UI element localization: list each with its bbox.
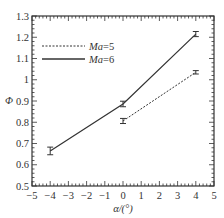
y-tick-label: 1.1 (16, 53, 29, 64)
x-tick-label: −5 (26, 190, 37, 201)
x-tick-labels: −5−4−3−2−1012345 (26, 190, 216, 201)
x-tick-label: −2 (81, 190, 92, 201)
series-ma-6 (47, 32, 199, 155)
series-ma-5 (120, 71, 199, 124)
x-tick-label: 0 (120, 190, 125, 201)
x-tick-label: −3 (63, 190, 74, 201)
x-tick-label: −4 (45, 190, 57, 201)
error-bar (120, 118, 126, 123)
series-line (50, 34, 196, 151)
x-tick-label: −1 (99, 190, 110, 201)
x-tick-label: 1 (139, 190, 144, 201)
series-line (123, 72, 196, 121)
error-bar (47, 147, 53, 155)
x-tick-label: 4 (193, 190, 199, 201)
legend-label-ma6: Ma=6 (88, 54, 114, 65)
legend: Ma=5 Ma=6 (42, 41, 114, 65)
y-tick-label: 1.3 (16, 11, 29, 22)
y-tick-labels: 0.50.60.70.80.911.11.21.3 (16, 11, 29, 192)
y-axis-label: Φ (5, 95, 13, 106)
x-tick-label: 5 (211, 190, 216, 201)
legend-label-ma5: Ma=5 (88, 41, 114, 52)
y-tick-label: 1.2 (16, 32, 29, 43)
x-tick-label: 2 (157, 190, 162, 201)
y-tick-label: 0.8 (16, 117, 29, 128)
data-series (47, 32, 199, 155)
y-tick-label: 0.9 (16, 96, 29, 107)
line-chart: 0.50.60.70.80.911.11.21.3 −5−4−3−2−10123… (0, 0, 224, 218)
y-tick-label: 0.6 (16, 159, 29, 170)
y-tick-label: 1 (24, 74, 29, 85)
x-axis-label: α/(°) (113, 203, 133, 215)
y-tick-label: 0.7 (16, 138, 29, 149)
x-tick-label: 3 (175, 190, 180, 201)
